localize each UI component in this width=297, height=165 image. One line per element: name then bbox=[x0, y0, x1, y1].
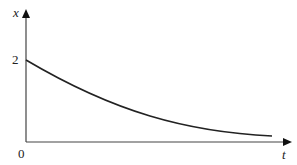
decay-curve bbox=[26, 60, 272, 136]
x-axis-label: t bbox=[282, 148, 286, 161]
y-axis-label: x bbox=[13, 6, 19, 19]
chart-canvas bbox=[0, 0, 297, 165]
origin-label: 0 bbox=[18, 147, 25, 160]
y-axis-arrow-icon bbox=[22, 9, 30, 18]
x-axis-arrow-icon bbox=[283, 138, 292, 146]
y-tick-label: 2 bbox=[12, 53, 19, 66]
